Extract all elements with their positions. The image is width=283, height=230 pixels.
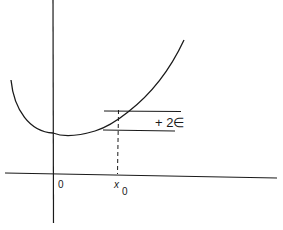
- band-label: + 2∈: [155, 115, 184, 130]
- upper-band-line: [104, 111, 181, 112]
- diagram-figure: + 2∈ 0 x 0: [0, 0, 283, 230]
- x0-label-subscript: 0: [122, 186, 128, 197]
- lower-band-line: [103, 130, 175, 131]
- y-axis: [53, 0, 54, 223]
- x0-label-main: x: [113, 179, 120, 190]
- origin-label: 0: [58, 179, 64, 190]
- x-axis: [5, 173, 277, 178]
